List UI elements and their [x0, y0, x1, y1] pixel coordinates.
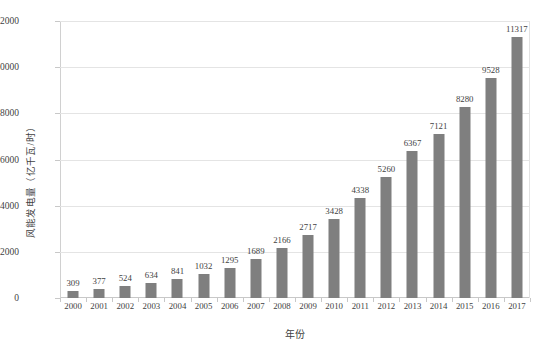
bar-group: 6367 [399, 21, 425, 298]
bar[interactable] [198, 274, 209, 298]
bar-value-label: 524 [119, 273, 132, 283]
bar-group: 4338 [347, 21, 373, 298]
x-axis-tick-mark [530, 298, 531, 302]
bar-group: 309 [60, 21, 86, 298]
x-axis-tick-mark [217, 298, 218, 302]
x-axis-tick-label: 2005 [195, 301, 213, 311]
y-axis-tick-label: 6000 [0, 155, 19, 165]
bar[interactable] [172, 279, 183, 298]
x-axis-tick-label: 2000 [64, 301, 82, 311]
x-axis-tick-label: 2013 [404, 301, 422, 311]
bar[interactable] [329, 219, 340, 298]
bar[interactable] [250, 259, 261, 298]
x-axis-tick-label: 2015 [456, 301, 474, 311]
bar[interactable] [381, 177, 392, 298]
x-axis-tick-mark [373, 298, 374, 302]
x-axis-tick-mark [504, 298, 505, 302]
bar-value-label: 841 [171, 266, 184, 276]
bar-value-label: 1295 [221, 255, 239, 265]
x-axis-tick-label: 2011 [352, 301, 369, 311]
bar[interactable] [303, 235, 314, 298]
bar-group: 3428 [321, 21, 347, 298]
x-axis-tick-mark [60, 298, 61, 302]
bar[interactable] [146, 283, 157, 298]
bar-group: 5260 [373, 21, 399, 298]
x-axis-tick-mark [399, 298, 400, 302]
y-axis-tick-label: 2000 [0, 247, 19, 257]
bar-chart: 风能发电量（亿千瓦/时） 020004000600080001000012000… [0, 0, 554, 354]
bar[interactable] [511, 37, 522, 298]
bar-group: 1689 [243, 21, 269, 298]
x-axis-tick-label: 2014 [430, 301, 448, 311]
bar-value-label: 3428 [325, 206, 343, 216]
bar-value-label: 377 [93, 276, 106, 286]
x-axis-tick-label: 2001 [90, 301, 108, 311]
bar[interactable] [224, 268, 235, 298]
x-axis-ticks: 2000200120022003200420052006200720082009… [60, 301, 530, 317]
bar-group: 1295 [217, 21, 243, 298]
bar-group: 524 [112, 21, 138, 298]
bar-value-label: 8280 [456, 94, 474, 104]
x-axis-tick-label: 2010 [325, 301, 343, 311]
bar-group: 841 [164, 21, 190, 298]
x-axis-tick-mark [426, 298, 427, 302]
x-axis-tick-mark [321, 298, 322, 302]
y-axis-tick-label: 12000 [0, 16, 19, 26]
x-axis-tick-label: 2006 [221, 301, 239, 311]
x-axis-tick-mark [478, 298, 479, 302]
bar-value-label: 2717 [299, 222, 317, 232]
x-axis-tick-label: 2017 [508, 301, 526, 311]
bar-value-label: 4338 [351, 185, 369, 195]
bar-value-label: 5260 [378, 164, 396, 174]
bar-group: 11317 [504, 21, 530, 298]
x-axis-tick-label: 2004 [169, 301, 187, 311]
x-axis-tick-mark [112, 298, 113, 302]
y-axis-tick-label: 0 [0, 293, 19, 303]
bar-group: 2717 [295, 21, 321, 298]
x-axis-tick-label: 2012 [378, 301, 396, 311]
x-axis-tick-mark [295, 298, 296, 302]
x-axis-tick-mark [243, 298, 244, 302]
bar-value-label: 1032 [195, 261, 213, 271]
bar-group: 2166 [269, 21, 295, 298]
bar-group: 8280 [452, 21, 478, 298]
x-axis-tick-mark [138, 298, 139, 302]
bar-group: 1032 [191, 21, 217, 298]
bar-value-label: 634 [145, 270, 158, 280]
bar[interactable] [94, 289, 105, 298]
bars-layer: 3093775246348411032129516892166271734284… [60, 21, 530, 298]
x-axis-tick-label: 2008 [273, 301, 291, 311]
y-axis-tick-label: 8000 [0, 108, 19, 118]
x-axis-tick-mark [164, 298, 165, 302]
x-axis-tick-label: 2002 [116, 301, 134, 311]
bar[interactable] [459, 107, 470, 298]
x-axis-tick-label: 2007 [247, 301, 265, 311]
bar-group: 377 [86, 21, 112, 298]
bar[interactable] [433, 134, 444, 298]
bar[interactable] [276, 248, 287, 298]
bar-value-label: 9528 [482, 65, 500, 75]
x-axis-tick-mark [452, 298, 453, 302]
bar[interactable] [355, 198, 366, 298]
bar-value-label: 1689 [247, 246, 265, 256]
x-axis-tick-mark [191, 298, 192, 302]
bar-value-label: 7121 [430, 121, 448, 131]
y-axis-title: 风能发电量（亿千瓦/时） [23, 65, 37, 295]
bar-value-label: 309 [66, 278, 79, 288]
bar-value-label: 6367 [404, 138, 422, 148]
x-axis-tick-mark [269, 298, 270, 302]
bar-group: 634 [138, 21, 164, 298]
x-axis-title: 年份 [60, 326, 530, 341]
bar-value-label: 11317 [506, 24, 528, 34]
x-axis-tick-label: 2016 [482, 301, 500, 311]
x-axis-tick-label: 2003 [143, 301, 161, 311]
bar[interactable] [120, 286, 131, 298]
x-axis-tick-label: 2009 [299, 301, 317, 311]
bar-value-label: 2166 [273, 235, 291, 245]
y-axis-tick-label: 4000 [0, 201, 19, 211]
bar[interactable] [485, 78, 496, 298]
bar-group: 7121 [426, 21, 452, 298]
bar[interactable] [407, 151, 418, 298]
y-axis-tick-label: 10000 [0, 62, 19, 72]
bar[interactable] [68, 291, 79, 298]
